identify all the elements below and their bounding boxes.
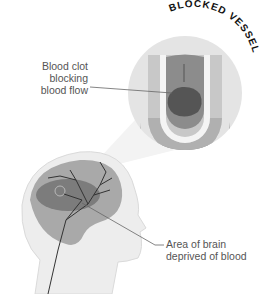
clot-label-line-2: blocking: [22, 72, 88, 84]
clot-label: Blood clot blocking blood flow: [22, 60, 88, 96]
clot-label-line-1: Blood clot: [22, 60, 88, 72]
clot-label-line-3: blood flow: [22, 84, 88, 96]
area-label-line-1: Area of brain: [166, 238, 261, 250]
blood-clot: [168, 87, 202, 117]
area-label-line-2: deprived of blood: [166, 250, 261, 262]
stroke-diagram: BLOCKED VESSEL Blood clot blocking blood…: [0, 0, 265, 294]
area-label: Area of brain deprived of blood: [166, 238, 261, 262]
